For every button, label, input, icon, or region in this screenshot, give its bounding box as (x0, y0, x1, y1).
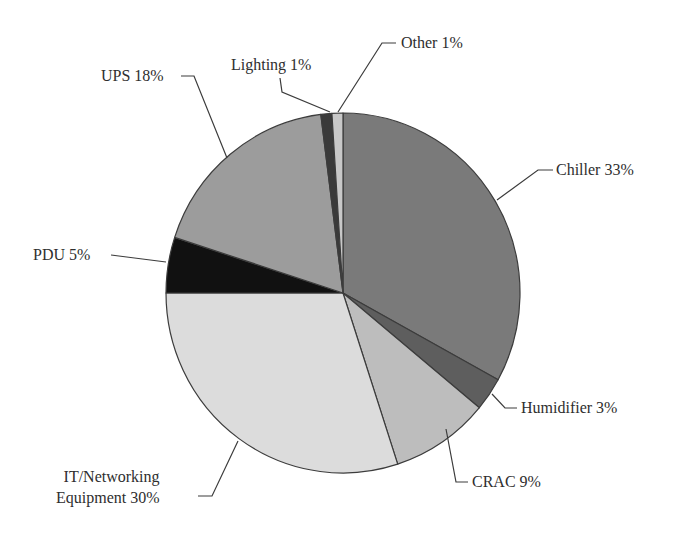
label-chiller: Chiller 33% (556, 160, 634, 180)
leader-line-chiller (497, 170, 553, 200)
leader-line-lighting (280, 78, 330, 112)
label-crac: CRAC 9% (472, 472, 541, 492)
label-lighting: Lighting 1% (231, 55, 311, 75)
label-other: Other 1% (401, 33, 463, 53)
label-pdu: PDU 5% (33, 245, 90, 265)
pie-slices (166, 113, 520, 473)
leader-line-humidifier (492, 394, 517, 408)
leader-line-ups (181, 76, 227, 158)
leader-line-it (198, 441, 238, 496)
label-it-networking: IT/Networking Equipment 30% (56, 466, 160, 508)
label-humidifier: Humidifier 3% (521, 398, 617, 418)
leader-line-other (338, 43, 396, 112)
leader-line-pdu (111, 255, 166, 262)
pie-chart: Other 1% Lighting 1% UPS 18% Chiller 33%… (0, 0, 688, 544)
label-ups: UPS 18% (101, 66, 164, 86)
